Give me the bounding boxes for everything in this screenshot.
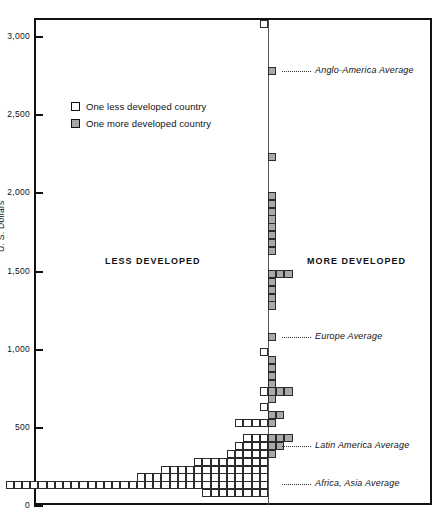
histogram-cell-less	[243, 489, 251, 497]
histogram-cell-more	[284, 434, 292, 442]
annotation-label-europe: Europe Average	[315, 331, 382, 341]
y-tick-2000	[34, 192, 43, 194]
histogram-cell-more	[276, 387, 284, 395]
histogram-cell-less	[55, 481, 63, 489]
histogram-cell-less	[260, 387, 268, 395]
y-tick-label-500: 500	[0, 422, 30, 432]
histogram-cell-more	[268, 153, 276, 161]
histogram-cell-less	[6, 481, 14, 489]
histogram-cell-more	[268, 67, 276, 75]
histogram-cell-less	[153, 481, 161, 489]
histogram-cell-more	[284, 270, 292, 278]
y-tick-500	[34, 427, 43, 429]
side-heading-more-developed: MORE DEVELOPED	[307, 256, 406, 266]
legend: One less developed country One more deve…	[71, 100, 211, 134]
histogram-cell-more	[268, 247, 276, 255]
histogram-cell-less	[112, 481, 120, 489]
histogram-cell-more	[268, 301, 276, 309]
y-tick-label-3000: 3,000	[0, 31, 30, 41]
side-heading-less-developed: LESS DEVELOPED	[105, 256, 201, 266]
histogram-cell-less	[170, 481, 178, 489]
histogram-cell-more	[268, 395, 276, 403]
histogram-cell-less	[96, 481, 104, 489]
histogram-cell-less	[227, 489, 235, 497]
legend-swatch-less-icon	[71, 102, 80, 111]
y-tick-label-2500: 2,500	[0, 109, 30, 119]
center-spine	[268, 20, 269, 505]
y-tick-3000	[34, 36, 43, 38]
histogram-cell-less	[235, 419, 243, 427]
histogram-cell-less	[137, 481, 145, 489]
annotation-leader-europe	[282, 337, 311, 338]
histogram-cell-less	[120, 481, 128, 489]
y-tick-0	[34, 505, 43, 507]
histogram-cell-less	[260, 419, 268, 427]
histogram-cell-less	[202, 489, 210, 497]
y-tick-label-0: 0	[0, 500, 30, 510]
legend-item-less: One less developed country	[71, 100, 211, 112]
annotation-label-anglo-america: Anglo-America Average	[315, 65, 414, 75]
histogram-cell-less	[129, 481, 137, 489]
y-axis-title: U. S. Dollars	[0, 200, 6, 252]
y-tick-1000	[34, 349, 43, 351]
histogram-cell-less	[260, 489, 268, 497]
y-tick-2500	[34, 114, 43, 116]
annotation-leader-latin-america	[282, 446, 311, 447]
histogram-cell-less	[88, 481, 96, 489]
annotation-label-africa-asia: Africa, Asia Average	[315, 478, 400, 488]
histogram-cell-less	[79, 481, 87, 489]
histogram-cell-more	[276, 270, 284, 278]
y-tick-label-1000: 1,000	[0, 344, 30, 354]
histogram-cell-more	[284, 387, 292, 395]
histogram-cell-less	[186, 481, 194, 489]
histogram-cell-less	[161, 481, 169, 489]
histogram-cell-less	[235, 489, 243, 497]
histogram-cell-less	[260, 348, 268, 356]
legend-item-more: One more developed country	[71, 117, 211, 129]
country-income-histogram: 3,0002,5002,0001,5001,0005000 U. S. Doll…	[0, 0, 445, 523]
histogram-cell-less	[14, 481, 22, 489]
histogram-cell-less	[71, 481, 79, 489]
histogram-cell-less	[260, 403, 268, 411]
histogram-cell-more	[268, 419, 276, 427]
histogram-cell-more	[268, 333, 276, 341]
histogram-cell-less	[252, 419, 260, 427]
histogram-cell-less	[104, 481, 112, 489]
legend-swatch-more-icon	[71, 119, 80, 128]
annotation-leader-africa-asia	[282, 484, 311, 485]
histogram-cell-less	[252, 489, 260, 497]
histogram-cell-less	[63, 481, 71, 489]
legend-label-more: One more developed country	[86, 118, 211, 129]
histogram-cell-less	[260, 20, 268, 28]
histogram-cell-less	[219, 489, 227, 497]
histogram-cell-less	[243, 419, 251, 427]
histogram-cell-less	[145, 481, 153, 489]
histogram-cell-less	[30, 481, 38, 489]
histogram-cell-less	[211, 489, 219, 497]
histogram-cell-more	[276, 411, 284, 419]
y-tick-1500	[34, 271, 43, 273]
histogram-cell-more	[268, 450, 276, 458]
histogram-cell-less	[22, 481, 30, 489]
legend-label-less: One less developed country	[86, 101, 206, 112]
y-tick-label-1500: 1,500	[0, 266, 30, 276]
histogram-cell-less	[38, 481, 46, 489]
histogram-cell-less	[47, 481, 55, 489]
y-tick-label-2000: 2,000	[0, 187, 30, 197]
histogram-cell-less	[178, 481, 186, 489]
annotation-label-latin-america: Latin America Average	[315, 440, 409, 450]
annotation-leader-anglo-america	[282, 71, 311, 72]
histogram-cell-less	[194, 481, 202, 489]
